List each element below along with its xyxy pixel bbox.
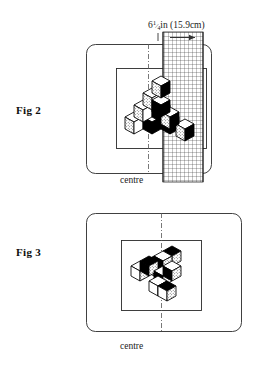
cube xyxy=(152,76,170,98)
figure-label-fig3: Fig 3 xyxy=(16,246,41,258)
illustration-page: Fig 2 61⁄4in (15.9cm) trim centre xyxy=(0,0,262,369)
figure-artwork xyxy=(0,0,262,369)
centre-label-fig3: centre xyxy=(120,341,143,351)
